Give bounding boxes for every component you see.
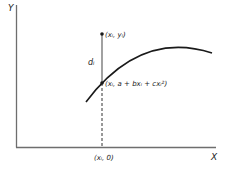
observed-point [100,32,104,36]
deviation-label: dᵢ [88,58,95,67]
quadratic-fit-diagram: Y X (xᵢ, yᵢ) (xᵢ, a + bxᵢ + cxᵢ²) dᵢ (xᵢ… [0,0,228,172]
x-intercept-label: (xᵢ, 0) [94,154,114,162]
fitted-point-label: (xᵢ, a + bxᵢ + cxᵢ²) [105,80,167,88]
x-axis-label: X [210,152,218,162]
fitted-point [100,81,104,85]
observed-point-label: (xᵢ, yᵢ) [105,31,126,39]
fitted-curve [86,47,212,102]
y-axis-label: Y [8,3,15,13]
